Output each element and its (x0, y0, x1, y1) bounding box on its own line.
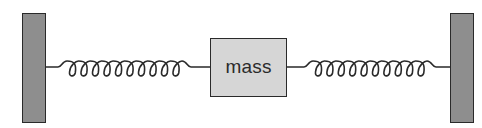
mass-spring-diagram: mass (0, 0, 482, 128)
right-spring (287, 61, 450, 76)
mass-block: mass (210, 38, 287, 97)
mass-label: mass (225, 57, 271, 76)
left-wall (22, 13, 46, 123)
right-wall (450, 13, 474, 123)
left-spring (46, 61, 210, 76)
